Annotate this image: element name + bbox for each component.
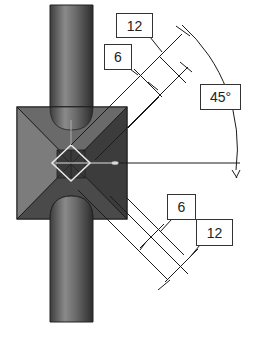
dimension-label-upper-6: 6	[104, 44, 132, 70]
label-text: 45°	[210, 89, 231, 105]
lower-rod	[50, 196, 93, 322]
angle-label-45: 45°	[200, 84, 241, 110]
dimension-label-lower-12: 12	[196, 219, 233, 246]
label-text: 6	[114, 49, 122, 65]
dimension-label-upper-12: 12	[116, 13, 153, 38]
label-text: 12	[207, 225, 223, 241]
label-text: 12	[127, 18, 143, 34]
label-text: 6	[178, 199, 186, 215]
dimension-label-lower-6: 6	[167, 194, 196, 220]
